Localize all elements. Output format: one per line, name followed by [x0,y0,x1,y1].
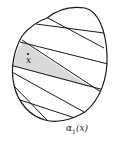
shaded-cell [13,42,92,88]
point-x-label: x [26,55,31,65]
chord-1 [46,17,104,48]
curve-label: α1(x) [66,123,88,135]
chord-8 [14,98,75,118]
convex-region-diagram: x α1(x) [0,0,115,147]
curve-label-arg: (x) [76,123,88,133]
chord-2 [36,24,104,33]
diagram-svg [0,0,115,147]
